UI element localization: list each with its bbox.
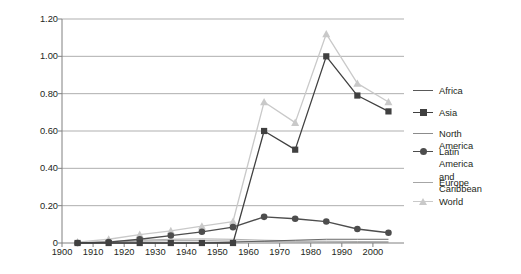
data-point-marker [385, 108, 391, 114]
series-line [78, 34, 389, 242]
series-asia [74, 53, 391, 246]
legend-swatch-triangle-icon [411, 196, 435, 208]
data-point-marker [199, 229, 206, 236]
data-point-marker [106, 240, 112, 246]
data-point-marker [74, 240, 80, 246]
data-point-marker [230, 224, 237, 231]
data-point-marker [291, 119, 299, 126]
data-point-marker [322, 30, 330, 37]
legend-item-europe[interactable]: Europe [411, 177, 469, 189]
legend-label: Africa [435, 85, 463, 97]
legend-item-asia[interactable]: Asia [411, 107, 457, 119]
legend-item-world[interactable]: World [411, 196, 463, 208]
legend-label: World [435, 196, 463, 208]
data-point-marker [354, 92, 360, 98]
data-point-marker [230, 240, 236, 246]
data-point-marker [168, 240, 174, 246]
data-point-marker [323, 218, 330, 225]
data-point-marker [137, 240, 143, 246]
series-world [74, 30, 393, 245]
data-point-marker [292, 147, 298, 153]
legend-swatch-line-icon [411, 85, 435, 97]
data-point-marker [261, 214, 268, 221]
chart-container: Annual under-5 deaths avoided, millions … [0, 0, 521, 274]
data-point-marker [384, 98, 392, 105]
legend-swatch-line-icon [411, 128, 435, 140]
data-point-marker [260, 98, 268, 105]
legend-swatch-circle-icon [411, 146, 435, 158]
legend-marker-icon [420, 109, 427, 116]
data-point-marker [385, 229, 392, 236]
legend-label: Europe [435, 177, 469, 189]
legend-swatch-line-icon [411, 177, 435, 189]
legend-label: Asia [435, 107, 457, 119]
data-point-marker [323, 53, 329, 59]
data-point-marker [229, 218, 237, 225]
data-point-marker [354, 226, 361, 233]
data-point-marker [199, 240, 205, 246]
series-line [78, 56, 389, 243]
legend-marker-icon [419, 198, 427, 205]
legend-marker-icon [420, 148, 427, 155]
legend-swatch-square-icon [411, 107, 435, 119]
legend-item-africa[interactable]: Africa [411, 85, 463, 97]
data-point-marker [353, 79, 361, 86]
data-point-marker [261, 128, 267, 134]
data-point-marker [168, 232, 175, 239]
data-point-marker [292, 215, 299, 222]
